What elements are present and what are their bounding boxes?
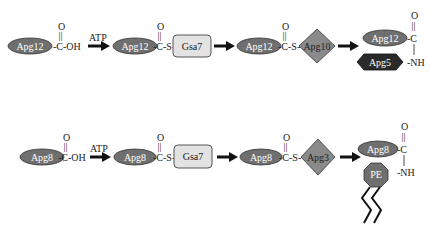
gsa7-box: Gsa7 (173, 35, 211, 57)
svg-text:Apg12: Apg12 (121, 41, 148, 52)
lipid-tail-icon (362, 187, 381, 223)
amide-nh: -NH (407, 57, 425, 68)
amide-nh: -NH (397, 167, 415, 178)
svg-text:Apg8: Apg8 (124, 152, 146, 163)
apg8-ellipse-gsa7-bound: Apg8 (114, 149, 156, 165)
amide-carbon: -C (407, 33, 417, 44)
apg3-diamond: Apg3 (301, 139, 335, 175)
ubiquitin-like-conjugation-diagram: Apg12 O || -C-OH ATP Apg12 O || -C-S- Gs… (0, 0, 430, 233)
apg8-ellipse-apg3-bound: Apg8 (240, 149, 282, 165)
apg10-diamond: Apg10 (299, 29, 335, 63)
double-bond: || (158, 30, 162, 41)
apg8-ellipse-product: Apg8 (358, 141, 398, 157)
apg12-label: Apg12 (16, 41, 43, 52)
pe-octagon: PE (364, 163, 388, 187)
carboxyl-group: -C-OH (58, 152, 86, 163)
row-apg8-pathway: Apg8 O || -C-OH ATP Apg8 O || -C-S- Gsa7… (20, 121, 415, 223)
apg10-label: Apg10 (303, 41, 330, 52)
double-bond: || (59, 30, 63, 41)
double-bond: || (283, 30, 287, 41)
gsa7-label: Gsa7 (182, 41, 203, 52)
svg-text:Apg8: Apg8 (250, 152, 272, 163)
apg3-label: Apg3 (307, 152, 329, 163)
arrow-icon (338, 41, 359, 51)
atp-label: ATP (90, 143, 108, 154)
amide-carbon: -C (397, 144, 407, 155)
arrow-icon (214, 41, 235, 51)
apg5-hexagon: Apg5 (357, 54, 403, 70)
apg5-label: Apg5 (369, 57, 391, 68)
gsa7-label: Gsa7 (183, 151, 204, 162)
svg-text:Apg12: Apg12 (371, 33, 398, 44)
arrow-icon (340, 152, 361, 162)
double-bond: || (64, 141, 68, 152)
gsa7-box: Gsa7 (174, 145, 212, 168)
double-bond: || (402, 131, 406, 142)
thioester-link: -C-S- (153, 41, 175, 52)
atp-label: ATP (89, 32, 107, 43)
double-bond: || (158, 141, 162, 152)
thioester-link: -C-S- (279, 152, 301, 163)
apg12-ellipse-product: Apg12 (363, 30, 407, 46)
carboxyl-group: -C-OH (53, 41, 81, 52)
arrow-icon (217, 152, 238, 162)
apg8-label: Apg8 (31, 152, 53, 163)
double-bond: || (284, 141, 288, 152)
apg12-ellipse-gsa7-bound: Apg12 (113, 38, 157, 54)
apg12-ellipse-free: Apg12 (8, 38, 52, 54)
svg-text:Apg12: Apg12 (245, 41, 272, 52)
pe-label: PE (370, 169, 382, 180)
apg12-ellipse-apg10-bound: Apg12 (237, 38, 281, 54)
row-apg12-pathway: Apg12 O || -C-OH ATP Apg12 O || -C-S- Gs… (8, 10, 425, 70)
double-bond: || (412, 20, 416, 31)
thioester-link: -C-S- (278, 41, 300, 52)
thioester-link: -C-S- (153, 152, 175, 163)
svg-text:Apg8: Apg8 (367, 144, 389, 155)
